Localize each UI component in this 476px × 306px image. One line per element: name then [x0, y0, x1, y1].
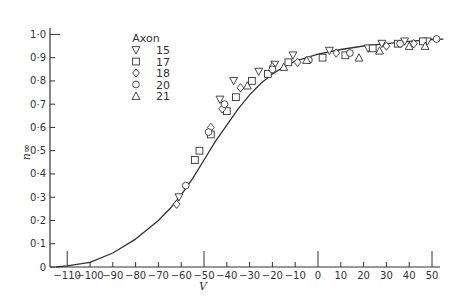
x-tick-label: 20	[357, 270, 370, 281]
y-tick-label: 0·7	[30, 99, 46, 110]
triangle-down-icon	[132, 47, 140, 54]
y-tick-label: 0	[40, 262, 46, 273]
y-tick-label: 0·1	[30, 238, 46, 249]
series-axon-18	[173, 40, 417, 209]
legend-item-21: 21	[132, 90, 170, 103]
y-tick-label: 1·0	[30, 29, 46, 40]
data-point	[191, 157, 198, 164]
x-tick-label: −60	[171, 270, 192, 281]
triangle-up-icon	[132, 92, 140, 99]
axes	[50, 28, 440, 267]
data-point	[255, 68, 263, 75]
x-tick-label: −90	[102, 270, 123, 281]
y-tick-label: 0·9	[30, 52, 46, 63]
data-point	[233, 94, 240, 101]
x-tick-label: 40	[403, 270, 416, 281]
legend-item-label: 21	[156, 90, 170, 103]
fit-curve-path	[56, 39, 444, 267]
x-tick-label: −80	[125, 270, 146, 281]
x-axis-label: V	[199, 280, 208, 293]
data-point	[319, 54, 326, 61]
data-point	[237, 84, 244, 92]
data-point	[182, 182, 189, 189]
legend: Axon1517182021	[132, 32, 170, 103]
x-tick-label: 30	[380, 270, 393, 281]
x-tick-label: −70	[148, 270, 169, 281]
data-point	[397, 40, 404, 47]
chart-canvas: −110−100−90−80−70−60−50−40−30−20−1001020…	[0, 0, 476, 306]
x-tick-label: −10	[285, 270, 306, 281]
data-point	[347, 50, 354, 57]
series-axon-20	[182, 36, 440, 189]
axis-ticks: −110−100−90−80−70−60−50−40−30−20−1001020…	[30, 29, 438, 281]
data-point	[196, 147, 203, 154]
x-tick-label: −30	[239, 270, 260, 281]
x-tick-label: −20	[262, 270, 283, 281]
y-tick-label: 0·8	[30, 75, 46, 86]
y-tick-label: 0·2	[30, 215, 46, 226]
square-icon	[133, 58, 140, 65]
x-tick-label: −40	[216, 270, 237, 281]
data-point	[248, 78, 255, 85]
data-point	[433, 36, 440, 43]
data-point	[289, 52, 297, 59]
data-point	[269, 66, 276, 73]
x-tick-label: 50	[426, 270, 439, 281]
data-point	[230, 78, 238, 85]
data-point	[205, 129, 212, 136]
data-point	[285, 59, 292, 66]
data-point	[355, 54, 363, 61]
fit-curve	[56, 39, 444, 267]
data-point	[369, 45, 376, 52]
y-tick-label: 0·4	[30, 168, 46, 179]
y-tick-label: 0·3	[30, 192, 46, 203]
data-point	[221, 101, 228, 108]
x-tick-label: 0	[315, 270, 321, 281]
y-axis-label: n∞	[20, 144, 33, 160]
diamond-icon	[133, 69, 140, 77]
data-points	[173, 36, 440, 209]
data-point	[376, 47, 384, 54]
x-tick-label: −100	[76, 270, 103, 281]
y-tick-label: 0·6	[30, 122, 46, 133]
x-tick-label: 10	[334, 270, 347, 281]
circle-icon	[133, 81, 140, 88]
